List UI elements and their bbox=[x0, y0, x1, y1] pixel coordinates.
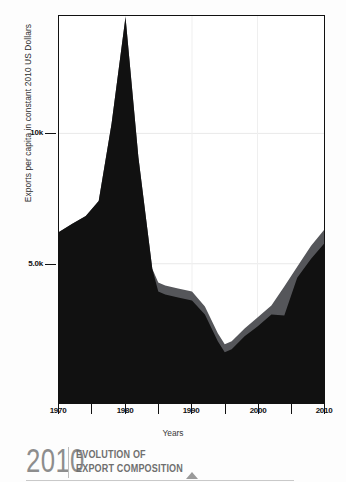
y-tick-5k bbox=[45, 264, 56, 265]
x-axis-title: Years bbox=[0, 428, 346, 438]
x-tick-1995 bbox=[225, 404, 226, 414]
triangle-up-icon bbox=[186, 472, 198, 479]
x-tick-1985 bbox=[158, 404, 159, 414]
y-tick-10k bbox=[45, 133, 56, 134]
area-chart-svg bbox=[59, 16, 324, 403]
x-tick-label-1970: 1970 bbox=[38, 406, 78, 415]
y-tick-label-5k: 5.0k bbox=[3, 259, 43, 268]
plot-area bbox=[58, 15, 325, 404]
y-axis-title: Exports per capita in constant 2010 US D… bbox=[23, 8, 33, 218]
x-tick-label-2010: 2010 bbox=[304, 406, 344, 415]
chart-page: Exports per capita in constant 2010 US D… bbox=[0, 0, 346, 482]
chart-figure: Exports per capita in constant 2010 US D… bbox=[0, 0, 346, 430]
x-tick-1975 bbox=[91, 404, 92, 414]
x-tick-2005 bbox=[291, 404, 292, 414]
caption-title-line1: EVOLUTION OF bbox=[76, 448, 146, 460]
x-tick-label-1980: 1980 bbox=[105, 406, 145, 415]
x-tick-label-1990: 1990 bbox=[171, 406, 211, 415]
caption-divider bbox=[68, 447, 69, 478]
x-tick-label-2000: 2000 bbox=[238, 406, 278, 415]
caption-title-line2: EXPORT COMPOSITION bbox=[76, 462, 183, 474]
figure-caption: 2010 EVOLUTION OF EXPORT COMPOSITION bbox=[0, 444, 346, 482]
caption-rule bbox=[26, 480, 294, 481]
y-tick-label-10k: 10k bbox=[3, 128, 43, 137]
